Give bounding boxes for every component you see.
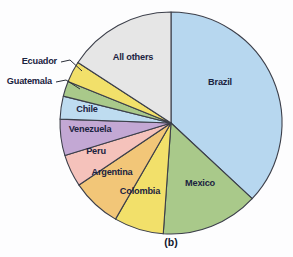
pie-chart-figure: BrazilMexicoColombiaArgentinaPeruVenezue…: [0, 0, 293, 257]
slice-label-all-others: All others: [113, 52, 153, 62]
slice-label-argentina: Argentina: [91, 167, 133, 177]
slice-label-venezuela: Venezuela: [69, 124, 113, 134]
slice-label-brazil: Brazil: [208, 77, 232, 87]
slice-label-guatemala: Guatemala: [7, 76, 53, 86]
slice-label-peru: Peru: [86, 146, 106, 156]
slice-label-colombia: Colombia: [120, 186, 161, 196]
slice-label-mexico: Mexico: [185, 178, 216, 188]
pie-slices-group: [60, 12, 282, 234]
slice-label-chile: Chile: [76, 104, 98, 114]
figure-caption: (b): [164, 236, 177, 248]
slice-label-ecuador: Ecuador: [22, 56, 58, 66]
pie-chart-svg: BrazilMexicoColombiaArgentinaPeruVenezue…: [0, 0, 293, 257]
